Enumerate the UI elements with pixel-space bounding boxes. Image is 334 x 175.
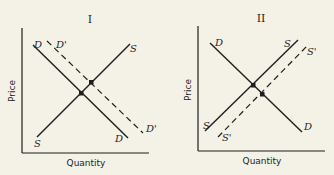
panel-1-label-d-prime-bottom: D' (145, 123, 157, 134)
panel-1-title: I (88, 13, 92, 26)
panel-2-label-s-prime-bottom: S' (222, 132, 232, 143)
panel-2-x-label: Quantity (243, 156, 283, 166)
panel-1-x-label: Quantity (67, 158, 107, 168)
panel-2-title: II (257, 12, 266, 25)
panel-2-equilibrium-point (251, 83, 256, 88)
panel-2-demand-curve (210, 43, 302, 132)
panel-2-label-d-bottom: D (303, 121, 312, 132)
panel-1-label-d-bottom: D (114, 133, 123, 144)
panel-1-supply-curve (37, 44, 130, 137)
panel-2-new-equilibrium-point (260, 92, 265, 97)
panel-1-shifted-demand-curve (47, 41, 143, 133)
panel-2-label-s-prime-top: S' (307, 46, 317, 57)
panel-2: II Price Quantity D S S' S S' D (183, 12, 325, 166)
panel-2-label-s-bottom: S (203, 120, 210, 131)
panel-1-new-equilibrium-point (89, 80, 94, 85)
panel-1-label-d-top: D (33, 39, 42, 50)
panel-1-label-s-top: S (130, 43, 137, 54)
panel-1-equilibrium-point (79, 91, 84, 96)
diagram-canvas: I Price Quantity D D' S S D D' II Price … (0, 0, 334, 175)
panel-1: I Price Quantity D D' S S D D' (7, 13, 157, 168)
panel-2-shifted-supply-curve (218, 44, 309, 137)
panel-1-y-label: Price (7, 80, 17, 102)
panel-2-label-s-top: S (284, 38, 291, 49)
panel-1-label-d-prime-top: D' (55, 39, 67, 50)
panel-2-label-d-top: D (214, 37, 223, 48)
panel-1-label-s-bottom: S (34, 138, 41, 149)
supply-demand-figure: I Price Quantity D D' S S D D' II Price … (0, 0, 334, 175)
panel-2-y-label: Price (183, 79, 193, 101)
